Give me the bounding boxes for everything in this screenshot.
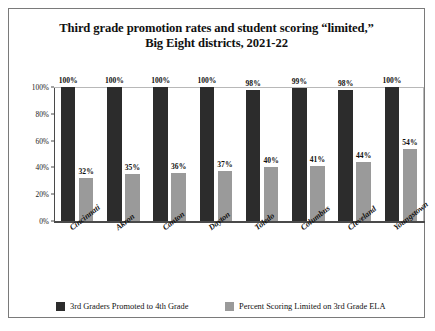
y-axis-tick-label: 60% (35, 136, 49, 145)
legend-swatch-limited (225, 302, 234, 311)
bar-value-label: 100% (197, 76, 216, 85)
y-axis-tick-label: 40% (35, 163, 49, 172)
bar-promoted[interactable]: 100% (200, 87, 215, 221)
chart-title: Third grade promotion rates and student … (9, 21, 424, 51)
bar-value-label: 100% (382, 76, 401, 85)
bar-value-label: 54% (402, 138, 417, 147)
bar-group: 100%35% (100, 87, 146, 221)
bar-promoted[interactable]: 100% (385, 87, 400, 221)
bar-group: 98%40% (239, 87, 285, 221)
bar-value-label: 98% (338, 79, 353, 88)
bar-promoted[interactable]: 100% (107, 87, 122, 221)
bar-value-label: 32% (79, 167, 94, 176)
bar-value-label: 41% (310, 155, 325, 164)
bar-group: 98%44% (332, 87, 378, 221)
bar-value-label: 40% (264, 156, 279, 165)
legend-label-limited: Percent Scoring Limited on 3rd Grade ELA (239, 302, 386, 311)
bar-group: 99%41% (285, 87, 331, 221)
legend-item-limited[interactable]: Percent Scoring Limited on 3rd Grade ELA (225, 302, 386, 311)
bar-group: 100%54% (378, 87, 424, 221)
bar-promoted[interactable]: 99% (292, 88, 307, 221)
y-axis-tick-label: 80% (35, 109, 49, 118)
y-axis-tick-label: 100% (32, 83, 49, 92)
bar-value-label: 100% (105, 76, 124, 85)
chart-title-line-1: Third grade promotion rates and student … (59, 21, 373, 35)
y-axis-tick-label: 20% (35, 190, 49, 199)
bar-value-label: 44% (356, 151, 371, 160)
legend-item-promoted[interactable]: 3rd Graders Promoted to 4th Grade (56, 302, 188, 311)
bar-group: 100%36% (147, 87, 193, 221)
chart-legend: 3rd Graders Promoted to 4th Grade Percen… (9, 302, 424, 318)
bar-promoted[interactable]: 98% (246, 90, 261, 221)
y-axis-tick-label: 0% (39, 217, 49, 226)
bar-group: 100%32% (54, 87, 100, 221)
bar-promoted[interactable]: 100% (153, 87, 168, 221)
plot-area: 0%20%40%60%80%100% 100%32%100%35%100%36%… (54, 87, 424, 221)
bar-value-label: 35% (125, 163, 140, 172)
bar-promoted[interactable]: 98% (338, 90, 353, 221)
chart-container: Third grade promotion rates and student … (8, 8, 425, 318)
bar-value-label: 100% (59, 76, 78, 85)
bar-value-label: 36% (171, 162, 186, 171)
bar-value-label: 99% (292, 77, 307, 86)
bar-group: 100%37% (193, 87, 239, 221)
legend-swatch-promoted (56, 302, 65, 311)
bar-value-label: 98% (246, 79, 261, 88)
legend-label-promoted: 3rd Graders Promoted to 4th Grade (70, 302, 188, 311)
bar-promoted[interactable]: 100% (61, 87, 76, 221)
chart-title-line-2: Big Eight districts, 2021-22 (9, 36, 424, 51)
bar-value-label: 37% (217, 160, 232, 169)
x-axis-line (54, 221, 425, 223)
bar-value-label: 100% (151, 76, 170, 85)
